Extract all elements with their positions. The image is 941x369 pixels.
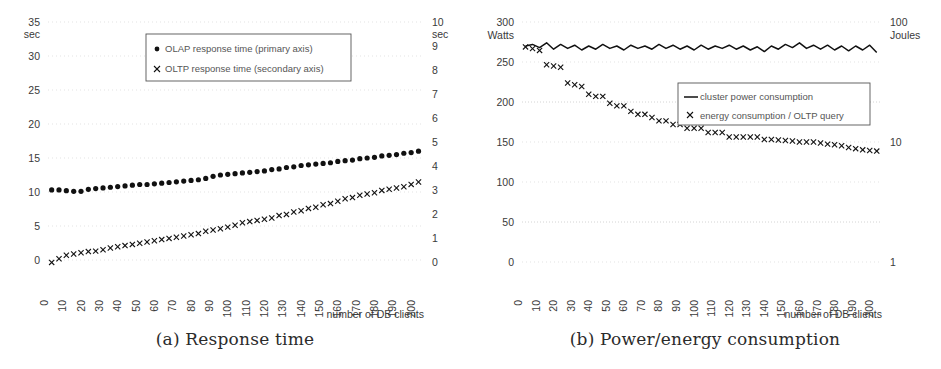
x-tick-150: 150: [313, 300, 325, 318]
x-tick-110: 110: [240, 300, 252, 317]
data-point-energy: [783, 138, 788, 143]
data-point-oltp: [299, 208, 304, 213]
legend-b-label-power: cluster power consumption: [700, 91, 813, 102]
data-point-olap: [49, 187, 54, 192]
data-point-olap: [203, 176, 208, 181]
data-point-olap: [56, 187, 61, 192]
data-point-oltp: [174, 235, 179, 240]
panel-response-time: 35 sec 30 25 20 15 10 5 0 10 sec 9 8 7 6…: [0, 0, 470, 369]
axis-a-left-tick-20: 20: [28, 118, 40, 130]
data-point-oltp: [122, 243, 127, 248]
data-point-olap: [152, 181, 157, 186]
data-point-olap: [343, 158, 348, 163]
data-point-energy: [741, 134, 746, 139]
data-point-oltp: [108, 245, 113, 250]
data-point-oltp: [93, 249, 98, 254]
data-point-olap: [284, 165, 289, 170]
axis-b-left-tick-300: 300: [496, 16, 514, 28]
data-point-energy: [600, 94, 605, 99]
data-point-energy: [825, 142, 830, 147]
data-point-olap: [254, 169, 259, 174]
axis-a-left-tick-30: 30: [28, 50, 40, 62]
data-point-olap: [387, 153, 392, 158]
data-point-olap: [64, 188, 69, 193]
x-tick-40: 40: [111, 300, 123, 312]
data-point-oltp: [115, 244, 120, 249]
data-point-energy: [579, 84, 584, 89]
x-tick-50: 50: [600, 300, 612, 312]
data-point-oltp: [240, 220, 245, 225]
axis-a-xlabel: number of DB clients: [327, 308, 424, 320]
data-point-oltp: [137, 241, 142, 246]
panel-power-energy: 300 Watts 250 200 150 100 50 0 100 Joule…: [470, 0, 940, 369]
chart-a-series-olap: [49, 149, 421, 194]
axis-b-left-unit: Watts: [488, 29, 514, 41]
axis-a-right-unit: sec: [432, 28, 448, 40]
data-point-oltp: [78, 250, 83, 255]
data-point-olap: [93, 186, 98, 191]
data-point-olap: [379, 153, 384, 158]
x-tick-20: 20: [75, 300, 87, 312]
data-point-oltp: [284, 212, 289, 217]
x-tick-70: 70: [166, 300, 178, 312]
data-point-oltp: [247, 219, 252, 224]
axis-b-right-tick-1: 1: [890, 256, 896, 268]
axis-a-left-tick-15: 15: [28, 152, 40, 164]
axis-a-right-tick-3: 3: [432, 184, 438, 196]
legend-a-label-olap: OLAP response time (primary axis): [165, 43, 313, 54]
x-tick-120: 120: [258, 300, 270, 318]
axis-a-right-tick-2: 2: [432, 208, 438, 220]
caption-b: (b) Power/energy consumption: [470, 329, 940, 349]
data-point-oltp: [225, 225, 230, 230]
axis-a-right-tick-10: 10: [432, 16, 444, 28]
data-point-olap: [108, 185, 113, 190]
data-point-olap: [291, 164, 296, 169]
data-point-energy: [628, 109, 633, 114]
data-point-energy: [635, 112, 640, 117]
x-tick-130: 130: [740, 300, 752, 318]
chart-b-right-axis: 100 Joules 10 1: [890, 16, 920, 268]
axis-a-right-tick-7: 7: [432, 88, 438, 100]
data-point-olap: [321, 161, 326, 166]
data-point-olap: [247, 170, 252, 175]
data-point-energy: [846, 145, 851, 150]
legend-a-label-oltp: OLTP response time (secondary axis): [165, 63, 324, 74]
data-point-oltp: [49, 260, 54, 265]
figure-container: 35 sec 30 25 20 15 10 5 0 10 sec 9 8 7 6…: [0, 0, 941, 369]
data-point-oltp: [306, 206, 311, 211]
data-point-oltp: [343, 196, 348, 201]
x-tick-100: 100: [221, 300, 233, 318]
data-point-olap: [210, 174, 215, 179]
data-point-oltp: [56, 256, 61, 261]
data-point-olap: [409, 150, 414, 155]
data-point-olap: [350, 157, 355, 162]
x-tick-140: 140: [758, 300, 770, 318]
data-point-olap: [240, 170, 245, 175]
data-point-olap: [115, 184, 120, 189]
data-point-olap: [218, 172, 223, 177]
data-point-olap: [181, 179, 186, 184]
axis-b-left-tick-0: 0: [508, 256, 514, 268]
data-point-oltp: [100, 247, 105, 252]
data-point-oltp: [144, 239, 149, 244]
data-point-energy: [684, 126, 689, 131]
data-point-energy: [551, 63, 556, 68]
data-point-olap: [78, 189, 83, 194]
data-point-energy: [762, 137, 767, 142]
x-tick-0: 0: [38, 300, 50, 306]
data-point-energy: [663, 118, 668, 123]
axis-a-left-tick-35: 35: [28, 16, 40, 28]
data-point-oltp: [416, 179, 421, 184]
data-point-energy: [734, 134, 739, 139]
data-point-energy: [811, 139, 816, 144]
data-point-olap: [313, 162, 318, 167]
data-point-energy: [727, 134, 732, 139]
x-tick-20: 20: [547, 300, 559, 312]
chart-a-legend: OLAP response time (primary axis) OLTP r…: [146, 34, 351, 81]
data-point-oltp: [269, 215, 274, 220]
data-point-olap: [144, 182, 149, 187]
x-tick-60: 60: [617, 300, 629, 312]
data-point-energy: [804, 139, 809, 144]
data-point-oltp: [203, 229, 208, 234]
axis-a-right-tick-8: 8: [432, 64, 438, 76]
